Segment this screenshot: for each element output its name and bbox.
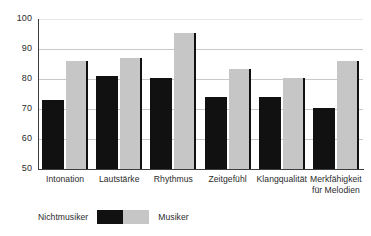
bar-musiker-3: [229, 69, 251, 170]
legend-swatch-musiker: [123, 210, 149, 224]
bar-chart: 100 90 80 70 60 50 IntonationLautstärkeR…: [0, 0, 371, 236]
bar-musiker-1: [120, 58, 142, 169]
bar-musiker-4: [283, 78, 305, 170]
bar-nichtmusiker-2: [150, 78, 172, 170]
bar-nichtmusiker-5: [313, 108, 335, 170]
x-axis-line: [38, 169, 364, 170]
y-tick-50: 50: [6, 164, 32, 173]
y-axis-line: [38, 19, 39, 170]
bar-nichtmusiker-1: [96, 76, 118, 169]
bar-nichtmusiker-3: [205, 97, 227, 169]
y-tick-70: 70: [6, 104, 32, 113]
bar-nichtmusiker-0: [42, 100, 64, 169]
legend-swatch-nichtmusiker: [97, 210, 123, 224]
x-axis-category-labels: IntonationLautstärkeRhythmusZeitgefühlKl…: [38, 174, 363, 208]
bar-nichtmusiker-4: [259, 97, 281, 169]
bar-musiker-5: [337, 61, 359, 169]
legend-swatches: [97, 210, 149, 224]
legend: Nichtmusiker Musiker: [38, 208, 189, 226]
bar-musiker-2: [174, 33, 196, 170]
y-tick-100: 100: [6, 14, 32, 23]
legend-label-musiker: Musiker: [158, 212, 188, 222]
y-tick-90: 90: [6, 44, 32, 53]
plot-area: [38, 19, 363, 169]
y-tick-60: 60: [6, 134, 32, 143]
legend-label-nichtmusiker: Nichtmusiker: [38, 212, 88, 222]
x-label-5: Merkfähigkeitfür Melodien: [303, 174, 369, 196]
bar-musiker-0: [66, 61, 88, 169]
gridline-90: [38, 49, 363, 50]
y-tick-80: 80: [6, 74, 32, 83]
gridline-100: [38, 19, 363, 20]
